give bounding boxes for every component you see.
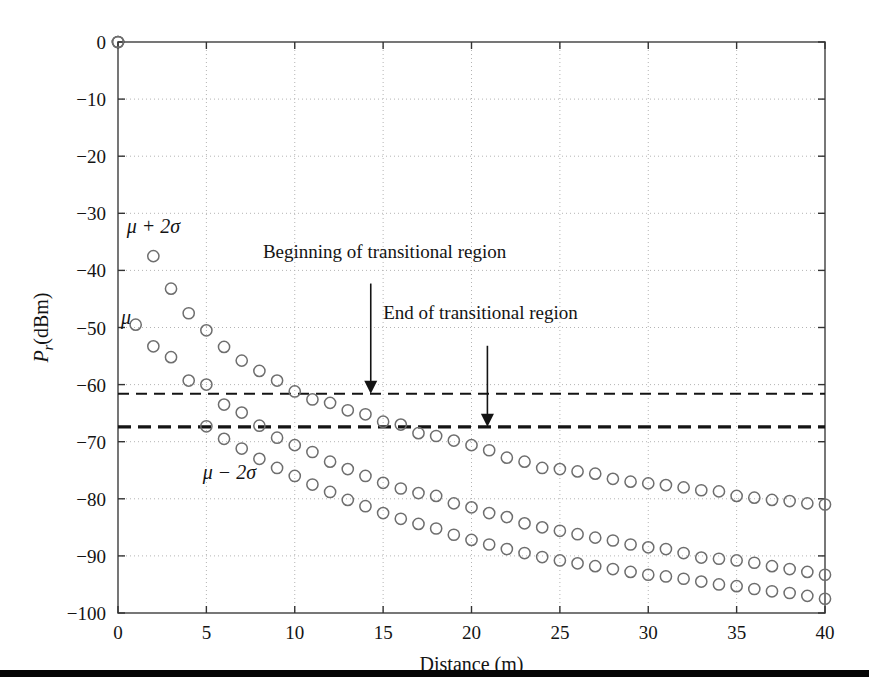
ytick-label: −50 [76, 318, 106, 339]
xtick-label: 5 [202, 622, 212, 643]
ytick-label: −30 [76, 203, 106, 224]
scatter-plot: 05101520253035400−10−20−30−40−50−60−70−8… [0, 0, 869, 700]
ytick-label: −60 [76, 375, 106, 396]
xtick-label: 25 [550, 622, 569, 643]
ytick-label: −20 [76, 146, 106, 167]
ytick-label: −70 [76, 432, 106, 453]
series-label-2: μ [120, 306, 131, 329]
ytick-label: −100 [67, 603, 106, 624]
beginning-of-transitional-region-label: Beginning of transitional region [263, 241, 507, 262]
end-of-transitional-region-label: End of transitional region [383, 302, 578, 323]
figure-container: 05101520253035400−10−20−30−40−50−60−70−8… [0, 0, 869, 700]
xtick-label: 30 [639, 622, 658, 643]
ytick-label: −90 [76, 546, 106, 567]
series-label-3: μ − 2σ [202, 461, 258, 484]
series-label-1: μ + 2σ [126, 215, 182, 238]
plot-background [0, 0, 869, 700]
xtick-label: 10 [285, 622, 304, 643]
xtick-label: 15 [374, 622, 393, 643]
xtick-label: 0 [113, 622, 123, 643]
bottom-rule [0, 670, 869, 677]
ytick-label: 0 [97, 32, 107, 53]
xtick-label: 40 [816, 622, 835, 643]
ytick-label: −10 [76, 89, 106, 110]
ytick-label: −80 [76, 489, 106, 510]
ytick-label: −40 [76, 260, 106, 281]
xtick-label: 35 [727, 622, 746, 643]
xtick-label: 20 [462, 622, 481, 643]
